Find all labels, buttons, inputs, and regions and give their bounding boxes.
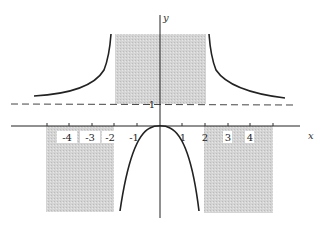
x-tick-labels: -4 -3 -2 -1 1 2 3 4	[57, 131, 254, 143]
x-tick-label-4: 4	[247, 132, 253, 143]
x-axis-label: x	[308, 130, 314, 141]
x-tick-label-2: 2	[202, 132, 208, 143]
x-tick-label-neg2: -2	[105, 132, 115, 143]
function-graph: -4 -3 -2 -1 1 2 3 4 1 x y	[0, 0, 323, 226]
x-tick-label-neg3: -3	[85, 132, 95, 143]
y-axis-label: y	[162, 12, 169, 23]
y-tick-label-1: 1	[149, 99, 155, 110]
curve-left-branch	[34, 34, 111, 96]
x-tick-label-3: 3	[225, 132, 231, 143]
curve-right-branch	[209, 34, 285, 98]
x-tick-label-neg4: -4	[62, 132, 72, 143]
shaded-region-bottom-right	[204, 126, 273, 213]
